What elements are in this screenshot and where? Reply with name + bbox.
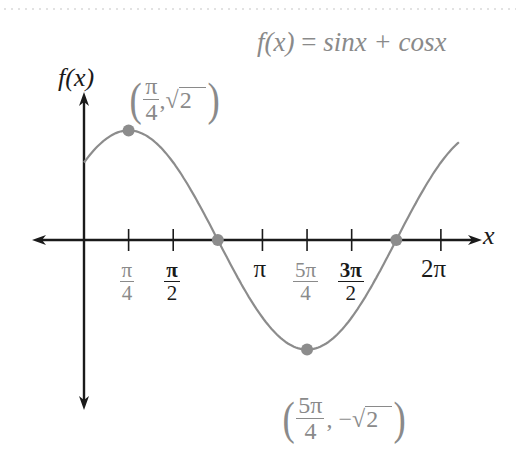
min-point-label: ( 5π 4 , −√2 ) <box>281 393 408 444</box>
x-intercept-point-marker <box>390 234 402 246</box>
sqrt-icon: √ <box>352 407 365 431</box>
min-close-paren: ) <box>394 396 406 442</box>
sqrt-icon: √ <box>165 88 178 112</box>
min-x-num: 5π <box>296 393 324 419</box>
min-neg: − <box>338 407 352 431</box>
title-rhs: sinx + cosx <box>323 27 446 57</box>
x-tick-label: 3π2 <box>338 259 364 304</box>
axes <box>32 92 482 410</box>
x-tick-label: 5π4 <box>293 259 318 304</box>
max-x-num: π <box>143 74 159 100</box>
x-intercept-point-marker <box>212 234 224 246</box>
minimum-point-marker <box>301 344 313 356</box>
chart-title: f(x) = sinx + cosx <box>257 29 446 56</box>
min-y-val: 2 <box>365 406 392 431</box>
x-tick-label: π2 <box>164 259 180 304</box>
x-tick-label: π <box>253 256 266 281</box>
y-axis-label: f(x) <box>58 65 94 91</box>
max-open-paren: ( <box>130 77 142 123</box>
max-x-fraction: π 4 <box>143 74 159 125</box>
min-sep: , <box>326 407 332 431</box>
x-axis-label: x <box>483 223 495 249</box>
min-open-paren: ( <box>283 396 295 442</box>
title-lhs: f(x) <box>257 27 294 57</box>
max-x-den: 4 <box>145 100 157 125</box>
maximum-point-marker <box>123 124 135 136</box>
x-tick-label: π4 <box>120 259 135 304</box>
min-x-den: 4 <box>304 419 316 444</box>
min-x-fraction: 5π 4 <box>296 393 324 444</box>
title-eq: = <box>294 27 323 57</box>
max-point-label: ( π 4 , √2 ) <box>128 74 221 125</box>
max-close-paren: ) <box>207 77 219 123</box>
max-y-val: 2 <box>179 87 206 112</box>
x-tick-label: 2π <box>421 256 446 281</box>
